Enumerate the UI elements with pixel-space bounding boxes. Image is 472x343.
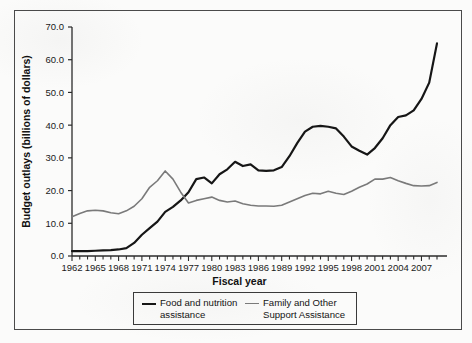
- x-axis-tick-label: 1980: [201, 262, 222, 273]
- legend-swatch-icon-series-1: [245, 303, 259, 304]
- y-axis-tick-label: 40.0: [46, 120, 65, 131]
- x-axis-tick-label: 1971: [131, 262, 152, 273]
- x-axis-tick-label: 2007: [411, 262, 432, 273]
- y-axis-tick-label: 50.0: [46, 87, 65, 98]
- x-axis-tick-label: 1992: [294, 262, 315, 273]
- legend-label-series-0: Food and nutrition assistance: [160, 297, 237, 320]
- x-axis-tick-label: 1962: [61, 262, 82, 273]
- y-axis-tick-label: 70.0: [46, 21, 65, 32]
- label-layer: 0.010.020.030.040.050.060.070.0196219651…: [20, 21, 432, 287]
- series-layer: [72, 43, 437, 251]
- series-line-0: [72, 43, 437, 251]
- x-axis-tick-label: 1995: [318, 262, 339, 273]
- x-axis-tick-label: 1965: [85, 262, 106, 273]
- legend-swatch-icon-series-0: [142, 303, 156, 305]
- y-axis-tick-label: 30.0: [46, 152, 65, 163]
- y-axis-tick-label: 20.0: [46, 185, 65, 196]
- x-axis-tick-label: 2001: [364, 262, 385, 273]
- x-axis-tick-label: 2004: [388, 262, 409, 273]
- x-axis-tick-label: 1968: [108, 262, 129, 273]
- legend-label-series-1: Family and Other Support Assistance: [263, 297, 345, 320]
- x-axis-title: Fiscal year: [212, 275, 266, 287]
- chart-legend: Food and nutrition assistance Family and…: [133, 292, 357, 325]
- x-axis-tick-label: 1998: [341, 262, 362, 273]
- axis-layer: [68, 27, 447, 261]
- x-axis-tick-label: 1983: [225, 262, 246, 273]
- series-line-1: [72, 171, 437, 217]
- legend-entry-food-and-nutrition-assistance: Food and nutrition assistance: [142, 297, 237, 320]
- y-axis-tick-label: 10.0: [46, 218, 65, 229]
- chart-page: 0.010.020.030.040.050.060.070.0196219651…: [0, 0, 472, 343]
- y-axis-tick-label: 0.0: [51, 250, 64, 261]
- x-axis-tick-label: 1977: [178, 262, 199, 273]
- x-axis-tick-label: 1974: [155, 262, 176, 273]
- y-axis-title: Budget outlays (billions of dollars): [20, 55, 32, 228]
- y-axis-tick-label: 60.0: [46, 54, 65, 65]
- legend-entry-family-and-other-support-assistance: Family and Other Support Assistance: [245, 297, 345, 320]
- x-axis-tick-label: 1989: [271, 262, 292, 273]
- x-axis-tick-label: 1986: [248, 262, 269, 273]
